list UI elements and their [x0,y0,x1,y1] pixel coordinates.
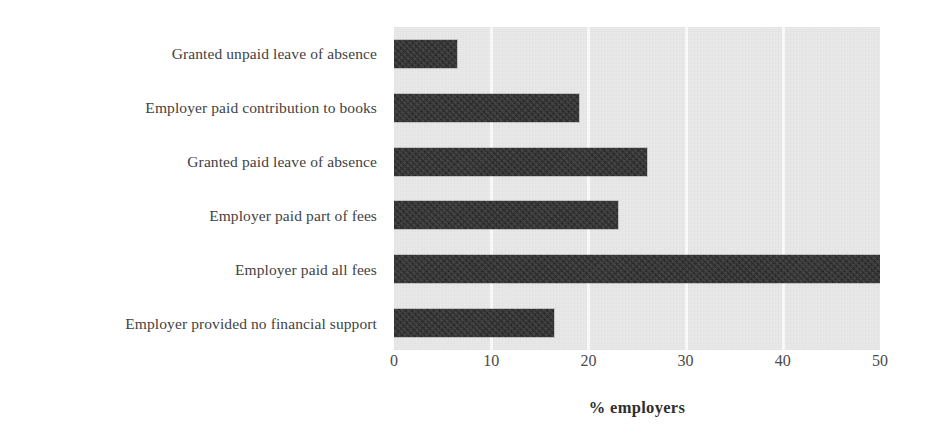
value-axis-ticks: 01020304050 [394,352,880,380]
bar-row [394,81,880,135]
value-axis-tick-label: 30 [678,352,694,370]
value-axis-title: % employers [394,398,880,418]
bar [394,309,554,337]
category-label-row: Employer provided no financial support [0,296,386,350]
bar-row [394,27,880,81]
bar [394,94,579,122]
bar [394,255,880,283]
category-label: Granted paid leave of absence [187,153,377,170]
category-label: Granted unpaid leave of absence [172,45,377,62]
category-label-row: Employer paid part of fees [0,188,386,242]
bars-layer [394,27,880,350]
value-axis-tick-label: 0 [390,352,398,370]
value-axis-tick-label: 40 [775,352,791,370]
category-label: Employer provided no financial support [125,315,377,332]
plot-area [394,27,880,350]
bar [394,40,457,68]
bar [394,148,647,176]
category-label-row: Granted unpaid leave of absence [0,27,386,81]
value-axis-tick-label: 50 [872,352,888,370]
bar-row [394,296,880,350]
category-label: Employer paid contribution to books [145,99,377,116]
category-label-row: Employer paid contribution to books [0,81,386,135]
category-label: Employer paid all fees [235,261,377,278]
bar-row [394,242,880,296]
category-label-row: Employer paid all fees [0,242,386,296]
bar [394,201,618,229]
bar-row [394,188,880,242]
category-axis: Granted unpaid leave of absence Employer… [0,27,386,350]
value-axis-tick-label: 10 [483,352,499,370]
category-label-row: Granted paid leave of absence [0,135,386,189]
bar-chart-figure: Granted unpaid leave of absence Employer… [0,0,930,448]
category-label: Employer paid part of fees [209,207,377,224]
bar-row [394,135,880,189]
value-axis-tick-label: 20 [580,352,596,370]
